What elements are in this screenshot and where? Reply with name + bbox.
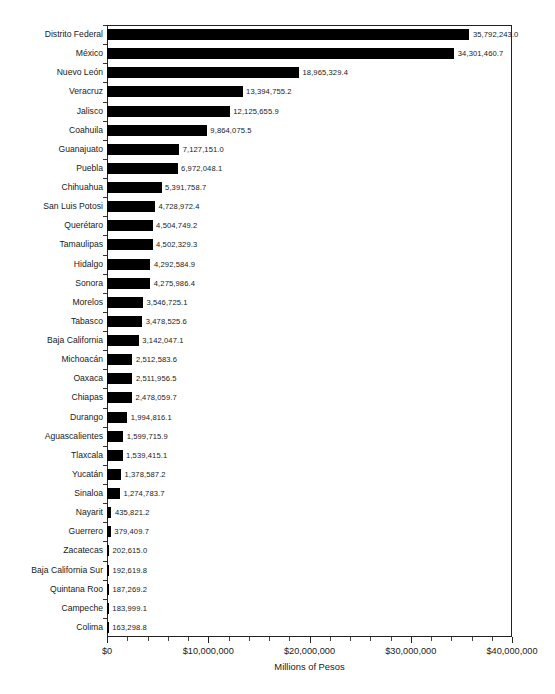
bar-value-label: 192,619.8: [112, 565, 147, 576]
category-label: Quintana Roo: [0, 584, 103, 595]
bar-value-label: 3,546,725.1: [146, 297, 187, 308]
category-label: Chihuahua: [0, 182, 103, 193]
bar: [107, 603, 109, 614]
bar-value-label: 6,972,048.1: [181, 163, 222, 174]
bar: [107, 526, 111, 537]
bar: [107, 507, 111, 518]
bar-value-label: 4,504,749.2: [156, 220, 197, 231]
bar-value-label: 4,728,972.4: [158, 201, 199, 212]
bar-value-label: 18,965,329.4: [303, 67, 349, 78]
category-label: Campeche: [0, 603, 103, 614]
category-label: Morelos: [0, 297, 103, 308]
x-axis-tick-label: $0: [102, 646, 112, 656]
bar-value-label: 34,301,460.7: [458, 48, 504, 59]
category-label: Hidalgo: [0, 259, 103, 270]
category-label: Aguascalientes: [0, 431, 103, 442]
bar: [107, 316, 142, 327]
bar: [107, 431, 123, 442]
category-label: Veracruz: [0, 86, 103, 97]
x-axis-minor-tick: [370, 637, 371, 641]
bar-value-label: 4,275,986.4: [154, 278, 195, 289]
x-axis-minor-tick: [451, 637, 452, 641]
x-axis-minor-tick: [330, 637, 331, 641]
bar: [107, 488, 120, 499]
bar: [107, 469, 121, 480]
bar-value-label: 3,478,525.6: [146, 316, 187, 327]
category-label: Sinaloa: [0, 488, 103, 499]
bar-value-label: 183,999.1: [112, 603, 147, 614]
bar-value-label: 2,478,059.7: [136, 392, 177, 403]
x-axis-minor-tick: [472, 637, 473, 641]
x-axis-minor-tick: [229, 637, 230, 641]
category-label: Distrito Federal: [0, 29, 103, 40]
category-label: Puebla: [0, 163, 103, 174]
bar-value-label: 7,127,151.0: [183, 144, 224, 155]
bar: [107, 86, 243, 97]
category-label: Tlaxcala: [0, 450, 103, 461]
bar-value-label: 4,502,329.3: [156, 239, 197, 250]
bar-value-label: 202,615.0: [113, 545, 148, 556]
bar: [107, 545, 109, 556]
bar-value-label: 5,391,758.7: [165, 182, 206, 193]
bar-value-label: 187,269.2: [112, 584, 147, 595]
x-axis-tick-label: $30,000,000: [385, 646, 436, 656]
bar-value-label: 2,512,583.6: [136, 354, 177, 365]
x-axis-major-tick: [310, 637, 311, 643]
x-axis-minor-tick: [148, 637, 149, 641]
category-label: Jalisco: [0, 106, 103, 117]
x-axis-major-tick: [411, 637, 412, 643]
bar: [107, 373, 132, 384]
x-axis-minor-tick: [127, 637, 128, 641]
x-axis-ticks: [107, 637, 512, 645]
category-label: Guanajuato: [0, 144, 103, 155]
x-axis-minor-tick: [289, 637, 290, 641]
bar-value-label: 3,142,047.1: [142, 335, 183, 346]
bar: [107, 106, 230, 117]
category-label: Zacatecas: [0, 545, 103, 556]
x-axis-tick-label: $40,000,000: [486, 646, 537, 656]
category-label: México: [0, 48, 103, 59]
category-label: Querétaro: [0, 220, 103, 231]
bar: [107, 182, 162, 193]
category-axis-labels: Distrito FederalMéxicoNuevo LeónVeracruz…: [0, 25, 103, 637]
bar-value-label: 12,125,655.9: [233, 106, 279, 117]
bar-value-label: 163,298.8: [112, 622, 147, 633]
x-axis-minor-tick: [249, 637, 250, 641]
bar-value-label: 35,792,243.0: [473, 29, 519, 40]
bar: [107, 29, 469, 40]
x-axis-minor-tick: [492, 637, 493, 641]
category-label: Chiapas: [0, 392, 103, 403]
x-axis-tick-label: $10,000,000: [183, 646, 234, 656]
category-label: Baja California: [0, 335, 103, 346]
category-label: Tamaulipas: [0, 239, 103, 250]
bar-value-label: 1,539,415.1: [126, 450, 167, 461]
bar-value-label: 1,599,715.9: [127, 431, 168, 442]
bar: [107, 259, 150, 270]
category-label: Michoacán: [0, 354, 103, 365]
bar-chart: Distrito FederalMéxicoNuevo LeónVeracruz…: [0, 0, 555, 694]
bar-value-label: 1,274,783.7: [123, 488, 164, 499]
bar: [107, 125, 207, 136]
x-axis-major-tick: [107, 637, 108, 643]
category-label: Durango: [0, 412, 103, 423]
bar: [107, 67, 299, 78]
category-label: Colima: [0, 622, 103, 633]
x-axis-major-tick: [512, 637, 513, 643]
bar: [107, 622, 109, 633]
bar: [107, 278, 150, 289]
bar-value-label: 13,394,755.2: [246, 86, 292, 97]
bar: [107, 450, 123, 461]
bar: [107, 335, 139, 346]
bar-value-label: 4,292,584.9: [154, 259, 195, 270]
category-label: Oaxaca: [0, 373, 103, 384]
bar-value-label: 9,864,075.5: [210, 125, 251, 136]
category-label: San Luis Potosi: [0, 201, 103, 212]
category-label: Coahuila: [0, 125, 103, 136]
x-axis-minor-tick: [391, 637, 392, 641]
category-label: Tabasco: [0, 316, 103, 327]
bar-value-label: 2,511,956.5: [136, 373, 177, 384]
x-axis-tick-label: $20,000,000: [284, 646, 335, 656]
x-axis-minor-tick: [188, 637, 189, 641]
x-axis-tick-labels: $0$10,000,000$20,000,000$30,000,000$40,0…: [0, 646, 555, 660]
bar: [107, 239, 153, 250]
